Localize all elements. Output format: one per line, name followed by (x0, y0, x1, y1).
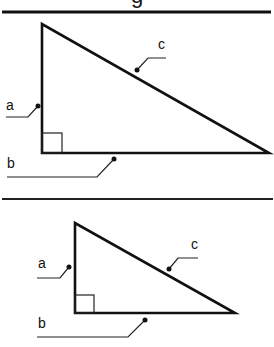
label-a: a (38, 255, 46, 271)
right-angle-marker (42, 133, 62, 153)
leader-a-dot (67, 265, 72, 270)
leader-b-dot (143, 318, 148, 323)
diagram-canvas: g a b c a b c (0, 0, 274, 347)
triangle-outline (42, 24, 269, 153)
leader-c (137, 58, 166, 70)
leader-b-dot (112, 157, 117, 162)
label-c: c (191, 236, 198, 252)
triangle-outline (75, 223, 235, 313)
label-a: a (6, 97, 14, 113)
leader-b (7, 159, 114, 177)
large-right-triangle: a b c (6, 24, 269, 177)
leader-b (37, 320, 145, 337)
label-c: c (158, 36, 165, 52)
small-right-triangle: a b c (37, 223, 235, 337)
leader-c-dot (135, 68, 140, 73)
title-fragment: g (131, 0, 143, 8)
leader-c (169, 258, 198, 269)
leader-a-dot (36, 104, 41, 109)
leader-c-dot (167, 267, 172, 272)
label-b: b (38, 315, 46, 331)
right-angle-marker (75, 295, 94, 313)
label-b: b (7, 155, 15, 171)
